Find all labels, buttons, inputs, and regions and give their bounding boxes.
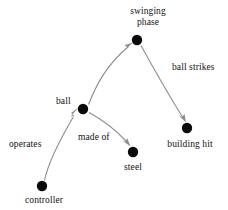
node-building-hit[interactable] [182,123,192,133]
arrowhead-swinging-to-building [179,114,186,123]
graph-svg [0,0,228,210]
node-controller[interactable] [37,181,47,191]
node-label-building-hit: building hit [167,139,212,150]
edge-label-made-of: made of [78,132,110,143]
arrowhead-controller-to-ball [71,108,79,117]
node-label-swinging-phase-line1: swinging [130,6,166,17]
node-steel[interactable] [128,147,138,157]
edge-controller-to-ball [45,117,74,181]
node-label-swinging-phase: swinging phase [130,6,166,27]
edge-swinging-to-building [141,46,183,118]
node-ball[interactable] [78,104,88,114]
node-label-swinging-phase-line2: phase [130,17,166,28]
edge-label-operates: operates [9,139,41,150]
edge-ball-to-swinging [89,47,129,105]
node-label-controller: controller [25,195,63,206]
edge-label-ball-strikes: ball strikes [172,62,215,73]
node-label-ball: ball [56,96,71,107]
diagram-canvas: swinging phase ball steel building hit c… [0,0,228,210]
node-swinging-phase[interactable] [132,35,142,45]
node-label-steel: steel [124,162,142,173]
arrowhead-ball-to-steel [122,138,131,146]
